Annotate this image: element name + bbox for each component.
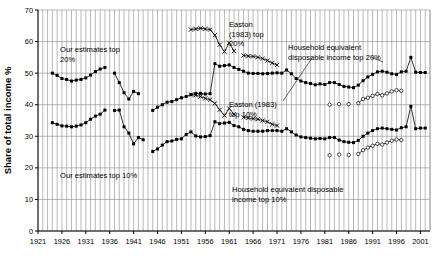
data-point-marker: [352, 141, 355, 144]
data-point-marker: [209, 134, 212, 137]
data-point-marker: [380, 143, 383, 146]
data-point-marker: [376, 92, 379, 95]
data-point-marker: [127, 132, 130, 135]
data-point-marker: [400, 126, 403, 129]
data-point-marker: [127, 98, 130, 101]
data-point-marker: [252, 130, 255, 133]
data-point-marker: [228, 63, 231, 66]
data-point-marker: [342, 85, 345, 88]
x-tick-label: 1921: [30, 237, 46, 246]
data-point-marker: [385, 127, 388, 130]
x-tick-label: 1951: [173, 237, 189, 246]
data-point-marker: [271, 129, 274, 132]
data-point-marker: [290, 72, 293, 75]
data-point-marker: [65, 78, 68, 81]
data-point-marker: [290, 130, 293, 133]
data-point-marker: [123, 125, 126, 128]
data-point-marker: [233, 124, 236, 127]
data-point-marker: [137, 136, 140, 139]
data-point-marker: [390, 139, 393, 142]
data-point-marker: [60, 77, 63, 80]
data-point-marker: [328, 136, 331, 139]
data-point-marker: [56, 123, 59, 126]
data-point-marker: [189, 130, 192, 133]
series-line: [52, 110, 105, 127]
data-point-marker: [199, 135, 202, 138]
data-point-marker: [170, 100, 173, 103]
data-point-marker: [137, 92, 140, 95]
data-point-marker: [414, 71, 417, 74]
data-point-marker: [333, 136, 336, 139]
data-point-marker: [390, 90, 393, 93]
data-point-marker: [204, 135, 207, 138]
chart-canvas: 0102030405060701921192619311936194119461…: [0, 0, 438, 267]
data-point-marker: [304, 81, 307, 84]
data-point-marker: [132, 90, 135, 93]
data-point-marker: [414, 127, 417, 130]
x-tick-label: 1976: [293, 237, 309, 246]
data-point-marker: [51, 72, 54, 75]
data-point-marker: [65, 125, 68, 128]
data-point-marker: [60, 124, 63, 127]
data-point-marker: [242, 128, 245, 131]
data-point-marker: [424, 127, 427, 130]
data-point-marker: [199, 92, 202, 95]
data-point-marker: [170, 140, 173, 143]
data-point-marker: [175, 98, 178, 101]
data-point-marker: [381, 70, 384, 73]
data-point-marker: [371, 144, 374, 147]
data-point-marker: [304, 136, 307, 139]
y-tick-label: 30: [25, 132, 33, 141]
data-point-marker: [405, 70, 408, 73]
annotation-easton20: (1983) top: [229, 30, 264, 39]
data-point-marker: [84, 76, 87, 79]
series-line: [153, 57, 425, 110]
data-point-marker: [409, 56, 412, 59]
data-point-marker: [309, 137, 312, 140]
data-point-marker: [342, 140, 345, 143]
series-line: [191, 95, 234, 116]
data-point-marker: [151, 109, 154, 112]
annotation-easton10: Easton (1983): [229, 100, 277, 109]
x-tick-label: 1981: [317, 237, 333, 246]
data-point-marker: [309, 82, 312, 85]
x-tick-label: 2001: [412, 237, 428, 246]
data-point-marker: [395, 88, 398, 91]
data-point-marker: [357, 152, 360, 155]
data-point-marker: [142, 138, 145, 141]
series-line: [358, 90, 401, 103]
series-line: [52, 67, 105, 81]
data-point-marker: [166, 140, 169, 143]
x-tick-label: 1991: [364, 237, 380, 246]
annotation-easton20: Easton: [229, 20, 253, 29]
data-point-marker: [118, 109, 121, 112]
data-point-marker: [424, 71, 427, 74]
annotation-our10: Our estimates top 10%: [60, 171, 137, 180]
data-point-marker: [366, 96, 369, 99]
data-point-marker: [113, 72, 116, 75]
data-point-marker: [247, 72, 250, 75]
annotation-our20: 20%: [60, 55, 75, 64]
data-point-marker: [400, 89, 403, 92]
data-point-marker: [357, 101, 360, 104]
annotation-leader-line: [283, 58, 312, 101]
data-point-marker: [366, 75, 369, 78]
data-point-marker: [328, 103, 331, 106]
annotation-hh10: Household equivalent disposable: [232, 185, 343, 194]
data-point-marker: [280, 130, 283, 133]
data-point-marker: [371, 129, 374, 132]
data-point-marker: [80, 78, 83, 81]
data-point-marker: [256, 72, 259, 75]
x-tick-label: 1986: [341, 237, 357, 246]
series-line: [191, 28, 234, 51]
data-point-marker: [89, 118, 92, 121]
data-point-marker: [361, 148, 364, 151]
data-point-marker: [371, 73, 374, 76]
data-point-marker: [161, 144, 164, 147]
data-point-marker: [314, 137, 317, 140]
data-point-marker: [51, 121, 54, 124]
data-point-marker: [347, 141, 350, 144]
x-tick-label: 1946: [149, 237, 165, 246]
data-point-marker: [89, 74, 92, 77]
data-point-marker: [352, 86, 355, 89]
